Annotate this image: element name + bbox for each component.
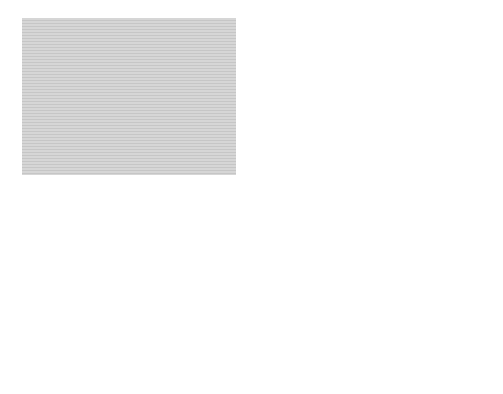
inventory-diagram bbox=[0, 0, 503, 394]
bg-real bbox=[22, 18, 236, 175]
